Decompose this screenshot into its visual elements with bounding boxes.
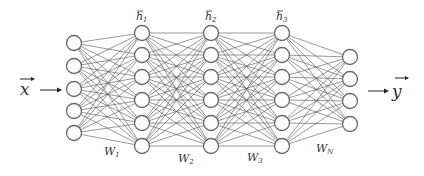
output-vector-arrowhead-icon bbox=[405, 76, 409, 80]
input-vector: x bbox=[20, 77, 62, 99]
weight-label: W1 bbox=[104, 145, 120, 159]
hidden2-neuron bbox=[204, 116, 219, 131]
hidden3-label: h3 bbox=[276, 10, 288, 24]
output-neuron bbox=[343, 50, 358, 65]
hidden3-neuron bbox=[275, 116, 290, 131]
input-vector-arrowhead-icon bbox=[31, 77, 35, 81]
weight-edge bbox=[282, 101, 350, 123]
hidden1-neuron bbox=[135, 26, 150, 41]
neuron-nodes bbox=[67, 26, 358, 154]
hidden1-neuron bbox=[135, 139, 150, 154]
input-neuron bbox=[67, 59, 82, 74]
weight-label: W2 bbox=[178, 152, 194, 166]
hidden1-neuron bbox=[135, 70, 150, 85]
output-label: y bbox=[391, 81, 402, 101]
input-neuron bbox=[67, 36, 82, 51]
input-arrowhead-icon bbox=[57, 88, 62, 93]
hidden3-neuron bbox=[275, 26, 290, 41]
output-vector: y bbox=[368, 76, 409, 101]
input-neuron bbox=[67, 104, 82, 119]
hidden3-neuron bbox=[275, 48, 290, 63]
output-neuron bbox=[343, 117, 358, 132]
hidden2-neuron bbox=[204, 70, 219, 85]
hidden-layer-labels: h1h2h3 bbox=[136, 10, 288, 24]
weight-label: WN bbox=[316, 142, 334, 156]
hidden1-neuron bbox=[135, 116, 150, 131]
weight-label: W3 bbox=[247, 151, 263, 165]
hidden2-neuron bbox=[204, 26, 219, 41]
hidden3-neuron bbox=[275, 70, 290, 85]
weight-edge bbox=[282, 57, 350, 146]
hidden2-neuron bbox=[204, 93, 219, 108]
hidden1-neuron bbox=[135, 48, 150, 63]
output-arrowhead-icon bbox=[384, 89, 389, 94]
output-neuron bbox=[343, 72, 358, 87]
neural-network-diagram: x y h1h2h3 W1W2W3WN bbox=[0, 0, 424, 176]
weight-edge bbox=[282, 33, 350, 57]
hidden3-neuron bbox=[275, 93, 290, 108]
input-neuron bbox=[67, 82, 82, 97]
hidden1-neuron bbox=[135, 93, 150, 108]
hidden2-label: h2 bbox=[205, 10, 217, 24]
input-neuron bbox=[67, 126, 82, 141]
weight-edge bbox=[74, 55, 142, 66]
output-neuron bbox=[343, 94, 358, 109]
hidden2-neuron bbox=[204, 48, 219, 63]
hidden2-neuron bbox=[204, 139, 219, 154]
weight-edge bbox=[282, 55, 350, 57]
weight-edge bbox=[74, 100, 142, 111]
hidden1-label: h1 bbox=[136, 10, 148, 24]
input-label: x bbox=[20, 79, 30, 99]
hidden3-neuron bbox=[275, 139, 290, 154]
